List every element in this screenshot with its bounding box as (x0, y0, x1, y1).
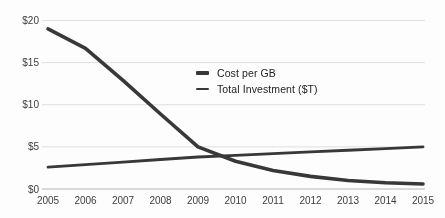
y-tick-label: $15 (22, 57, 39, 68)
x-tick-label: 2009 (187, 195, 210, 206)
x-tick-label: 2012 (299, 195, 322, 206)
x-tick-label: 2005 (37, 195, 60, 206)
series-path-cost-per-gb (48, 29, 423, 184)
line-chart: $0$5$10$15$20200520062007200820092010201… (0, 0, 445, 218)
x-tick-label: 2011 (262, 195, 284, 206)
legend-label: Cost per GB (217, 67, 276, 79)
x-tick-label: 2014 (374, 195, 397, 206)
x-tick-label: 2015 (412, 195, 435, 206)
y-tick-label: $0 (28, 184, 40, 195)
legend-dash-icon (196, 71, 209, 75)
chart-container: $0$5$10$15$20200520062007200820092010201… (0, 0, 445, 218)
legend-label: Total Investment ($T) (217, 83, 318, 95)
chart-legend: Cost per GB Total Investment ($T) (196, 66, 318, 96)
x-tick-label: 2008 (149, 195, 172, 206)
x-tick-label: 2013 (337, 195, 360, 206)
legend-dash-icon (196, 88, 209, 91)
legend-item-total-investment: Total Investment ($T) (196, 82, 318, 96)
y-tick-label: $5 (28, 141, 40, 152)
legend-item-cost-per-gb: Cost per GB (196, 66, 318, 80)
y-tick-label: $10 (22, 99, 39, 110)
x-tick-label: 2007 (112, 195, 135, 206)
series-path-total-investment (48, 147, 423, 167)
y-tick-label: $20 (22, 15, 39, 26)
x-tick-label: 2006 (74, 195, 97, 206)
x-tick-label: 2010 (224, 195, 247, 206)
